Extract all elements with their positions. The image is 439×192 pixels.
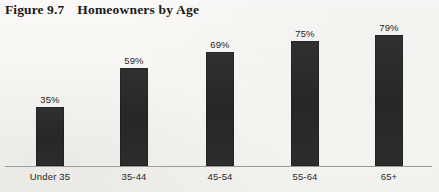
bar-column[interactable]: 35% xyxy=(8,16,92,166)
bar-value-label: 69% xyxy=(210,39,229,50)
bar-column[interactable]: 59% xyxy=(92,16,176,166)
x-axis-category-label: 65+ xyxy=(347,171,431,183)
figure-page: Figure 9.7 Homeowners by Age 35% Under 3… xyxy=(0,0,439,192)
bar-group: 79% xyxy=(347,16,431,166)
bar-group: 69% xyxy=(178,16,262,166)
bar-group: 35% xyxy=(8,16,92,166)
bar-rect[interactable] xyxy=(375,35,403,166)
bar-value-label: 79% xyxy=(379,22,398,33)
x-axis-category-label: Under 35 xyxy=(8,171,92,183)
bar-rect[interactable] xyxy=(120,68,148,166)
x-axis-category-label: 35-44 xyxy=(92,171,176,183)
bar-value-label: 35% xyxy=(40,94,59,105)
bar-chart: 35% Under 35 59% 35-44 69% 45-54 75% xyxy=(0,22,439,192)
bar-group: 75% xyxy=(263,16,347,166)
bar-rect[interactable] xyxy=(291,41,319,166)
bar-rect[interactable] xyxy=(206,52,234,166)
bar-value-label: 59% xyxy=(124,55,143,66)
bar-column[interactable]: 69% xyxy=(178,16,262,166)
bar-value-label: 75% xyxy=(295,28,314,39)
x-axis-category-label: 55-64 xyxy=(263,171,347,183)
x-axis-category-label: 45-54 xyxy=(178,171,262,183)
bar-group: 59% xyxy=(92,16,176,166)
bar-column[interactable]: 79% xyxy=(347,16,431,166)
bar-rect[interactable] xyxy=(36,107,64,166)
bar-column[interactable]: 75% xyxy=(263,16,347,166)
x-axis-line xyxy=(5,166,432,167)
